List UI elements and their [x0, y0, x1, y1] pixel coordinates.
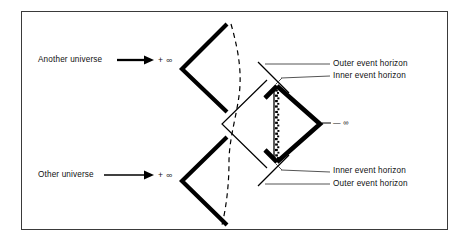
right-arrow-icon-bottom: [104, 171, 154, 180]
label-minus-infinity: — ∞: [333, 119, 349, 127]
label-inner-event-horizon-bottom: Inner event horizon: [333, 167, 406, 175]
label-plus-infinity-top: + ∞: [158, 56, 173, 65]
label-outer-event-horizon-bottom: Outer event horizon: [333, 180, 408, 188]
upper-left-universe-wedge: [182, 24, 227, 112]
label-another-universe: Another universe: [38, 56, 102, 64]
penrose-diagram-canvas: [0, 0, 463, 249]
central-black-hole-diamond: [265, 86, 320, 162]
leader-line-inner-horizon-bottom: [276, 164, 330, 172]
diagram-page: Another universe + ∞ Other universe + ∞ …: [0, 0, 463, 249]
leader-line-inner-horizon-top: [276, 76, 330, 84]
infalling-worldline-dashed: [222, 24, 240, 225]
label-outer-event-horizon-top: Outer event horizon: [333, 60, 408, 68]
outer-horizon-diamond: [222, 80, 267, 168]
label-plus-infinity-bottom: + ∞: [158, 171, 173, 180]
singularity-line: [274, 88, 279, 160]
label-inner-event-horizon-top: Inner event horizon: [333, 72, 406, 80]
label-other-universe: Other universe: [38, 171, 94, 179]
right-arrow-icon-top: [117, 56, 154, 65]
lower-left-universe-wedge: [182, 137, 227, 225]
